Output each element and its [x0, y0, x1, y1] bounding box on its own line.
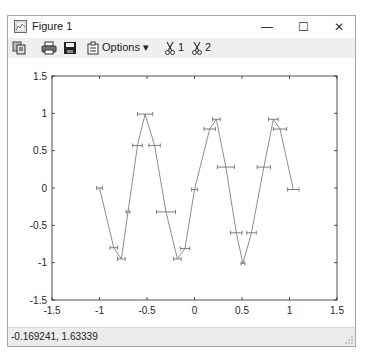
options-icon[interactable] — [86, 41, 100, 55]
scissors-icon[interactable] — [164, 41, 178, 55]
window-title: Figure 1 — [32, 20, 72, 32]
x-tick-label: -0.5 — [138, 305, 156, 316]
toolbar: Options ▾ 1 2 — [8, 38, 355, 58]
x-tick-label: 1 — [287, 305, 293, 316]
cursor-coordinates: -0.169241, 1.63339 — [11, 331, 98, 342]
x-tick-label: -1.5 — [43, 305, 61, 316]
y-tick-label: -1.5 — [30, 295, 48, 306]
print-icon[interactable] — [41, 41, 55, 55]
y-tick-label: -1 — [38, 257, 47, 268]
plot-axes[interactable]: -1.5-1-0.500.511.51.510.50-0.5-1-1.5 — [8, 58, 355, 329]
x-tick-label: 0 — [192, 305, 198, 316]
y-tick-label: -0.5 — [30, 220, 48, 231]
scissors-icon[interactable] — [191, 41, 205, 55]
resize-grip-icon[interactable] — [345, 336, 353, 344]
y-tick-label: 0.5 — [33, 145, 47, 156]
plot-canvas[interactable]: -1.5-1-0.500.511.51.510.50-0.5-1-1.5 — [8, 58, 355, 329]
copy-icon[interactable] — [12, 41, 26, 55]
figure-window: Figure 1 — ☐ ✕ Options ▾ 1 2 -1.5-1-0.50… — [7, 15, 356, 347]
x-tick-label: 0.5 — [235, 305, 249, 316]
x-tick-label: -1 — [95, 305, 104, 316]
y-tick-label: 1 — [41, 108, 47, 119]
y-tick-label: 0 — [41, 183, 47, 194]
title-bar[interactable]: Figure 1 — ☐ ✕ — [8, 16, 355, 38]
status-bar: -0.169241, 1.63339 — [8, 327, 355, 346]
axes-2-button[interactable]: 2 — [205, 41, 211, 53]
x-tick-label: 1.5 — [330, 305, 344, 316]
figure-app-icon — [14, 20, 27, 33]
y-tick-label: 1.5 — [33, 71, 47, 82]
close-button[interactable]: ✕ — [321, 16, 357, 38]
axes-1-button[interactable]: 1 — [178, 41, 184, 53]
options-menu-button[interactable]: Options ▾ — [102, 41, 149, 54]
minimize-button[interactable]: — — [249, 16, 285, 38]
save-icon[interactable] — [63, 41, 77, 55]
maximize-button[interactable]: ☐ — [285, 16, 321, 38]
